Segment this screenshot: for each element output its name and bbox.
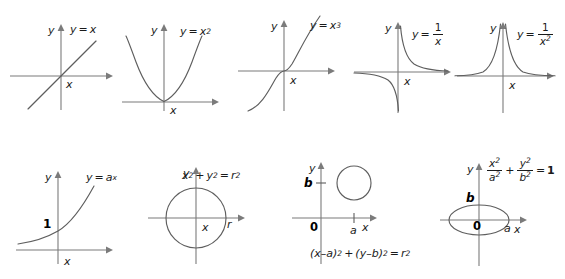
eq-plus: + xyxy=(503,165,516,176)
eq-plus: + xyxy=(342,248,355,259)
y-axis-label: y xyxy=(308,162,316,175)
y-intercept-label: 1 xyxy=(43,217,51,231)
x-tick-label-a: a xyxy=(504,222,511,235)
x-axis-label: x xyxy=(513,223,521,236)
fraction-x2-over-a2: x2 a2 xyxy=(487,158,502,182)
x-axis-label: x xyxy=(361,221,369,234)
x-axis-arrow xyxy=(106,247,113,254)
radius-label: r xyxy=(227,218,233,231)
equation-circle-origin: x2 + y2 = r2 xyxy=(182,170,240,181)
x-axis-label: x xyxy=(289,74,297,87)
eq-sign: = xyxy=(388,248,401,259)
x-axis-arrow xyxy=(212,99,219,106)
y-tick-label-b: b xyxy=(304,176,313,190)
eq-sign: = xyxy=(187,26,200,37)
origin-label: 0 xyxy=(310,220,318,234)
y-axis-label: y xyxy=(47,24,55,37)
y-axis-arrow xyxy=(161,24,168,31)
x-axis-arrow xyxy=(444,69,451,76)
y-axis-label: y xyxy=(489,22,497,35)
x-axis-arrow xyxy=(106,73,113,80)
equation-exponential: y = ax xyxy=(86,172,117,183)
graph-linear: x y xyxy=(8,14,118,114)
x-axis-label: x xyxy=(508,79,516,92)
equation-cubic: y = x3 xyxy=(310,20,341,31)
eq-term1-base: x xyxy=(182,170,189,181)
eq-rhs: 1 xyxy=(547,165,555,176)
curve-line xyxy=(28,41,96,109)
x-axis-label: x xyxy=(403,75,411,88)
equation-ellipse: x2 a2 + y2 b2 = 1 xyxy=(486,158,555,182)
x-axis-arrow xyxy=(370,215,377,222)
eq-sign: = xyxy=(534,165,547,176)
graph-exponential: x y 1 xyxy=(14,168,132,268)
y-axis-label: y xyxy=(150,24,158,37)
y-axis-label: y xyxy=(466,163,474,176)
x-axis-arrow xyxy=(328,68,335,75)
panel-ellipse: x y b a 0 x2 a2 + y2 b2 = 1 xyxy=(440,152,565,270)
eq-sign: = xyxy=(419,29,432,40)
y-axis-label: y xyxy=(270,20,278,33)
x-tick-label-a: a xyxy=(350,224,357,237)
fraction-denominator: x xyxy=(433,34,443,47)
x-axis-arrow xyxy=(238,215,245,222)
equation-reciprocal-squared: y = 1 x2 xyxy=(517,22,554,46)
y-axis-arrow xyxy=(281,20,288,27)
eq-rhs-base: r xyxy=(231,170,236,181)
graph-quadratic: x y xyxy=(118,14,230,114)
denominator-exponent: 2 xyxy=(546,33,551,42)
equation-circle-offset: (x–a)2 + (y–b)2 = r2 xyxy=(310,248,410,259)
eq-term1: (x–a) xyxy=(310,248,337,259)
denominator-exponent: 2 xyxy=(526,169,531,178)
y-axis-arrow xyxy=(476,163,483,170)
numerator-exponent: 2 xyxy=(495,156,500,165)
y-axis-arrow xyxy=(318,162,325,169)
panel-quadratic: x y y = x2 xyxy=(118,14,230,114)
curve-circle xyxy=(337,166,371,200)
y-tick-label-b: b xyxy=(466,191,475,205)
fraction-denominator: a2 xyxy=(487,170,502,183)
x-axis-label: x xyxy=(65,78,73,91)
numerator-exponent: 2 xyxy=(526,156,531,165)
x-axis-arrow xyxy=(520,217,527,224)
fraction-y2-over-b2: y2 b2 xyxy=(517,158,532,182)
eq-term2: (y–b) xyxy=(355,248,383,259)
eq-sign: = xyxy=(218,170,231,181)
eq-sign: = xyxy=(317,20,330,31)
fraction-denominator: x2 xyxy=(538,34,553,47)
fraction-numerator: y2 xyxy=(518,158,533,170)
eq-sign: = xyxy=(93,172,106,183)
panel-circle-origin: x y r x2 + y2 = r2 xyxy=(148,152,278,270)
panel-linear: x y y = x xyxy=(8,14,118,114)
fraction-1-over-x-squared: 1 x2 xyxy=(538,22,553,46)
equation-linear: y = x xyxy=(70,24,96,35)
panel-circle-offset: x y b a 0 (x–a)2 + (y–b)2 = r2 xyxy=(292,152,442,270)
y-axis-arrow xyxy=(55,171,62,178)
panel-reciprocal-squared: x y y = 1 x2 xyxy=(455,14,563,114)
curve-exponential xyxy=(18,186,94,244)
denominator-exponent: 2 xyxy=(495,169,500,178)
eq-rhs: x xyxy=(90,24,97,35)
eq-sign: = xyxy=(524,29,537,40)
origin-label: 0 xyxy=(473,219,481,233)
fraction-1-over-x: 1 x xyxy=(433,22,444,46)
y-axis-label: y xyxy=(384,22,392,35)
eq-sign: = xyxy=(77,24,90,35)
panel-reciprocal: x y y = 1 x xyxy=(352,14,457,114)
fraction-numerator: x2 xyxy=(487,158,502,170)
x-axis-label: x xyxy=(201,221,209,234)
equation-quadratic: y = x2 xyxy=(180,26,211,37)
panel-exponential: x y 1 y = ax xyxy=(14,168,132,268)
x-axis-label: x xyxy=(169,104,177,117)
panel-cubic: x y y = x3 xyxy=(236,14,348,114)
curve-branch-lower xyxy=(354,73,399,111)
eq-plus: + xyxy=(193,170,206,181)
y-axis-label: y xyxy=(44,171,52,184)
x-axis-label: x xyxy=(63,255,71,268)
fraction-numerator: 1 xyxy=(540,22,551,34)
fraction-numerator: 1 xyxy=(433,22,444,34)
equation-reciprocal: y = 1 x xyxy=(412,22,444,46)
y-axis-arrow xyxy=(58,24,65,31)
fraction-denominator: b2 xyxy=(517,170,532,183)
